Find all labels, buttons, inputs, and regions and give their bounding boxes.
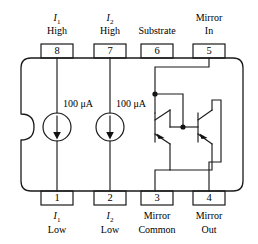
bottom-pin-2-label-sub: 2: [110, 216, 114, 224]
ic-package-outline: [21, 58, 243, 191]
bottom-pin-1-label-line1: I1: [53, 210, 61, 224]
top-pin-5-label-line1: Mirror: [196, 12, 223, 23]
bottom-pin-2-label-line2: Low: [101, 224, 120, 235]
bottom-pin-3-label-line2: Common: [138, 224, 175, 235]
top-pin-5-label-line2: In: [205, 25, 213, 36]
bottom-pin-4-number: 4: [206, 192, 212, 203]
output-transistor-emitter-arrow: [200, 134, 208, 140]
input-transistor-collector-slant: [155, 110, 170, 120]
output-transistor-collector-wire: [209, 100, 221, 191]
output-transistor-collector-slant: [198, 110, 212, 120]
mirror-in-wire: [155, 58, 209, 94]
bottom-pin-3-label-line1: Mirror: [144, 210, 171, 221]
bottom-pin-4-label-line2: Out: [202, 224, 217, 235]
input-transistor-emitter-arrow: [157, 134, 165, 140]
bottom-pin-3-number: 3: [154, 192, 159, 203]
schematic-figure: I1 High I2 High Substrate Mirror In 8 7 …: [0, 0, 258, 244]
top-pin-6-label-line1: Substrate: [138, 25, 176, 36]
bottom-pin-1-number: 1: [54, 192, 59, 203]
bottom-pin-2-label-line1: I2: [106, 210, 114, 224]
source-2-arrowhead: [106, 132, 114, 140]
top-pin-5-number: 5: [206, 45, 211, 56]
top-pin-8-label-line1: I1: [53, 12, 61, 26]
top-pin-7-label-line1: I2: [106, 12, 114, 26]
bottom-pin-4-label-line1: Mirror: [196, 210, 223, 221]
output-transistor-emitter-wire: [170, 144, 212, 170]
bottom-pin-2-number: 2: [107, 192, 112, 203]
source-1-value-label: 100 μA: [63, 98, 94, 109]
top-pin-7-label-line2: High: [100, 25, 120, 36]
source-1-arrowhead: [53, 132, 61, 140]
top-pin-7-number: 7: [107, 45, 112, 56]
bottom-pin-1-label-line2: Low: [48, 224, 67, 235]
output-transistor-emitter-slant: [198, 134, 212, 144]
circuit-diagram-svg: I1 High I2 High Substrate Mirror In 8 7 …: [0, 0, 258, 244]
top-pin-8-number: 8: [54, 45, 59, 56]
input-transistor-emitter-wire: [155, 144, 170, 191]
source-2-value-label: 100 μA: [116, 98, 147, 109]
top-pin-6-number: 6: [154, 45, 159, 56]
bottom-pin-1-label-sub: 1: [57, 216, 61, 224]
top-pin-8-label-line2: High: [47, 25, 67, 36]
